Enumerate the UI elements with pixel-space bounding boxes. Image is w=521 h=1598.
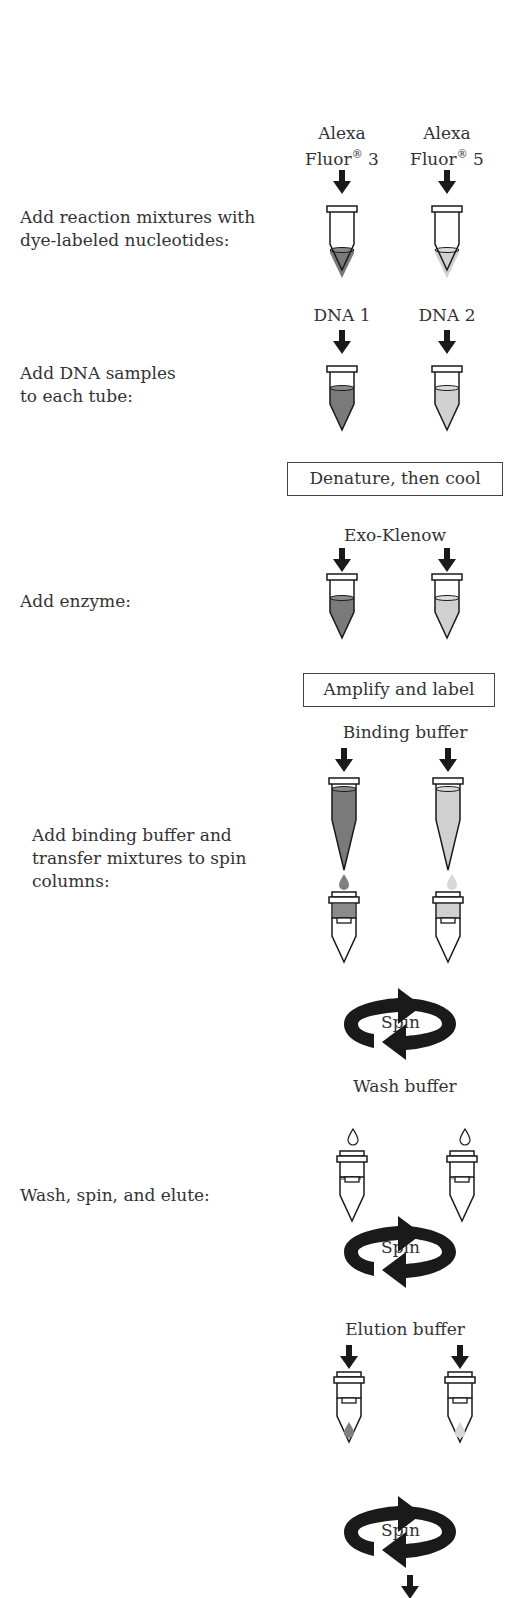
arrow-down-icon	[333, 330, 351, 354]
drop-icon	[339, 874, 349, 890]
arrow-down-icon	[438, 170, 456, 194]
arrow-down-icon	[438, 330, 456, 354]
spin-column-icon	[329, 892, 359, 962]
arrow-down-icon	[438, 548, 456, 572]
tube-icon	[432, 574, 462, 638]
arrow-down-icon	[451, 1345, 469, 1369]
arrow-down-icon	[335, 748, 353, 772]
spin-icon	[344, 1496, 456, 1568]
tube-icon	[327, 206, 357, 278]
spin-column-icon	[433, 892, 463, 962]
arrow-down-icon	[439, 748, 457, 772]
drop-icon	[455, 1422, 465, 1438]
spin-icon	[344, 1216, 456, 1288]
workflow-graphics	[0, 0, 521, 1598]
arrow-down-icon	[333, 548, 351, 572]
tube-icon	[433, 778, 463, 870]
tube-icon	[432, 206, 462, 278]
spin-column-icon	[447, 1151, 477, 1221]
tube-icon	[329, 778, 359, 870]
spin-icon	[344, 988, 456, 1060]
spin-column-icon	[337, 1151, 367, 1221]
drop-icon	[460, 1129, 470, 1145]
tube-icon	[327, 574, 357, 638]
drop-icon	[348, 1129, 358, 1145]
arrow-down-icon	[340, 1345, 358, 1369]
arrow-down-icon	[333, 170, 351, 194]
tube-icon	[432, 366, 462, 430]
drop-icon	[344, 1422, 354, 1438]
drop-icon	[447, 874, 457, 890]
tube-icon	[327, 366, 357, 430]
arrow-down-icon	[401, 1575, 419, 1598]
